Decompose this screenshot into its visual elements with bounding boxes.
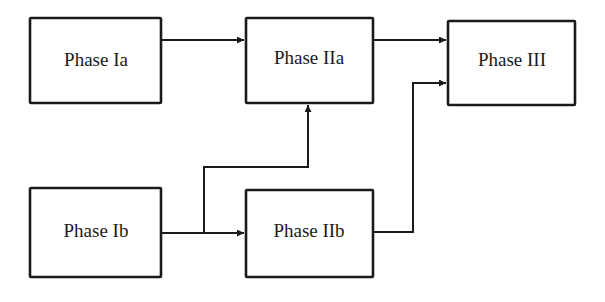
- node-phase-ia: Phase Ia: [30, 18, 161, 103]
- node-label: Phase III: [478, 49, 546, 70]
- node-label: Phase Ib: [64, 220, 129, 241]
- node-phase-iib: Phase IIb: [246, 190, 373, 277]
- node-phase-iia: Phase IIa: [246, 18, 373, 103]
- node-label: Phase IIb: [273, 220, 344, 241]
- node-label: Phase IIa: [274, 47, 345, 68]
- edge-iib-to-iii: [373, 83, 446, 232]
- node-phase-ib: Phase Ib: [30, 188, 161, 277]
- node-label: Phase Ia: [64, 49, 128, 70]
- phase-flow-diagram: Phase Ia Phase IIa Phase III Phase Ib Ph…: [0, 0, 605, 302]
- node-phase-iii: Phase III: [448, 21, 575, 105]
